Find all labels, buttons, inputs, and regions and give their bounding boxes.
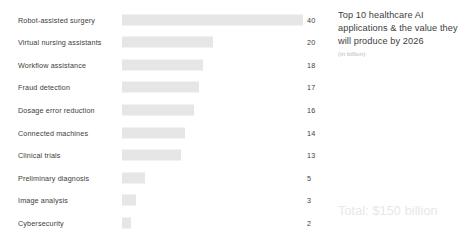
bar-row: Virtual nursing assistants20: [0, 31, 330, 54]
bar-fill: [122, 82, 199, 93]
bar-track: [122, 150, 307, 161]
bar-row: Workflow assistance18: [0, 53, 330, 76]
bar-category-label: Preliminary diagnosis: [18, 173, 89, 182]
bar-value-label: 13: [307, 151, 315, 160]
bar-row: Robot-assisted surgery40: [0, 8, 330, 31]
chart-root: Robot-assisted surgery40Virtual nursing …: [0, 0, 469, 230]
bar-value-label: 5: [307, 173, 311, 182]
bar-track: [122, 14, 307, 25]
bar-category-label: Robot-assisted surgery: [18, 15, 95, 24]
bar-row: Image analysis3: [0, 189, 330, 212]
bar-track: [122, 82, 307, 93]
bar-value-label: 17: [307, 83, 315, 92]
bar-value-label: 18: [307, 60, 315, 69]
bar-row: Connected machines14: [0, 121, 330, 144]
bar-value-label: 3: [307, 196, 311, 205]
bar-fill: [122, 172, 145, 183]
bar-chart: Robot-assisted surgery40Virtual nursing …: [0, 0, 330, 230]
bar-track: [122, 217, 307, 228]
bar-fill: [122, 150, 181, 161]
bar-row: Preliminary diagnosis5: [0, 166, 330, 189]
bar-fill: [122, 127, 185, 138]
bar-value-label: 2: [307, 218, 311, 227]
total-value-label: Total: $150 billion: [338, 203, 438, 219]
bar-category-label: Virtual nursing assistants: [18, 38, 102, 47]
bar-track: [122, 37, 307, 48]
bar-row: Clinical trials13: [0, 144, 330, 167]
bar-fill: [122, 59, 203, 70]
bar-category-label: Image analysis: [18, 196, 68, 205]
bar-category-label: Dosage error reduction: [18, 105, 95, 114]
bar-value-label: 40: [307, 15, 315, 24]
chart-subtitle: (in billion): [338, 50, 466, 58]
bar-category-label: Workflow assistance: [18, 60, 86, 69]
bar-fill: [122, 37, 213, 48]
bar-category-label: Fraud detection: [18, 83, 70, 92]
bar-fill: [122, 14, 303, 25]
chart-title: Top 10 healthcare AI applications & the …: [338, 9, 466, 49]
bar-track: [122, 195, 307, 206]
bar-row: Dosage error reduction16: [0, 98, 330, 121]
bar-row: Cybersecurity2: [0, 211, 330, 230]
bar-fill: [122, 217, 131, 228]
bar-category-label: Connected machines: [18, 128, 88, 137]
bar-value-label: 14: [307, 128, 315, 137]
bar-fill: [122, 104, 194, 115]
bar-row: Fraud detection17: [0, 76, 330, 99]
bar-value-label: 16: [307, 105, 315, 114]
chart-caption: Top 10 healthcare AI applications & the …: [338, 9, 466, 58]
bar-value-label: 20: [307, 38, 315, 47]
bar-fill: [122, 195, 136, 206]
bar-track: [122, 59, 307, 70]
bar-category-label: Clinical trials: [18, 151, 61, 160]
bar-track: [122, 172, 307, 183]
bar-track: [122, 104, 307, 115]
bar-category-label: Cybersecurity: [18, 218, 64, 227]
bar-track: [122, 127, 307, 138]
